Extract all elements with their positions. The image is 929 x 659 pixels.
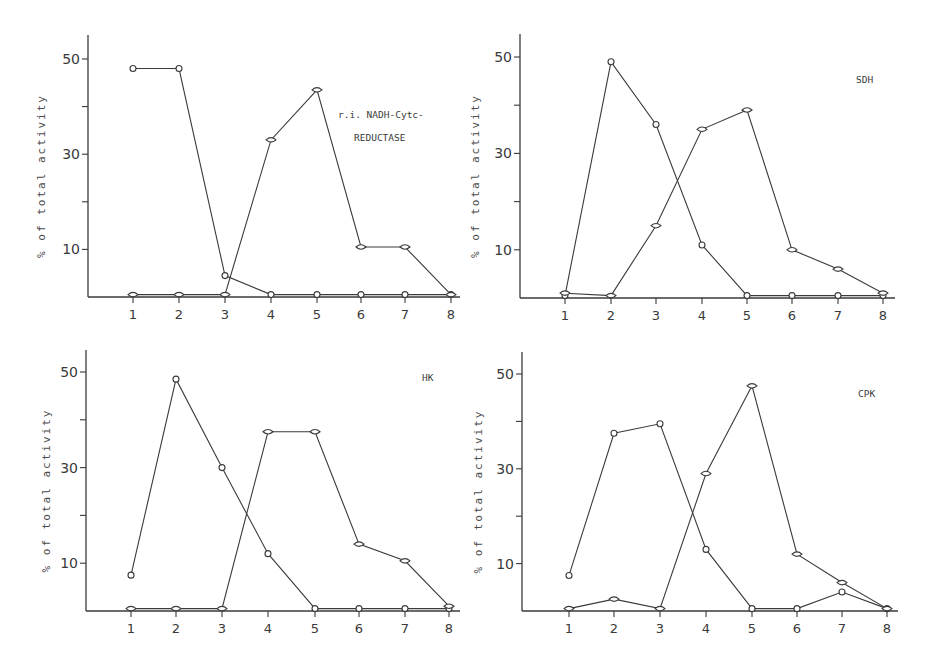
circle-marker-icon (173, 376, 179, 382)
x-tick-label: 8 (447, 307, 455, 322)
circle-marker-icon (312, 606, 318, 612)
diamond-marker-icon (310, 430, 320, 435)
x-tick-label: 5 (313, 307, 321, 322)
diamond-marker-icon (697, 127, 707, 132)
diamond-marker-icon (792, 552, 802, 557)
x-tick-label: 7 (834, 308, 842, 323)
x-tick-label: 2 (172, 621, 180, 636)
y-axis-label: % of total activity (469, 94, 482, 258)
x-tick-label: 2 (175, 307, 183, 322)
x-tick-label: 6 (788, 308, 796, 323)
y-tick-label: 50 (494, 49, 512, 65)
diamond-marker-icon (444, 604, 454, 609)
x-tick-label: 3 (656, 621, 664, 636)
x-tick-label: 1 (561, 308, 569, 323)
panel-title: HK (422, 372, 434, 383)
diamond-marker-icon (356, 245, 366, 250)
diamond-marker-icon (787, 248, 797, 253)
series-line-diamond (133, 90, 451, 295)
circle-marker-icon (265, 551, 271, 557)
x-tick-label: 3 (652, 308, 660, 323)
diamond-marker-icon (564, 606, 574, 611)
circle-marker-icon (749, 606, 755, 612)
diamond-marker-icon (263, 430, 273, 435)
x-tick-label: 3 (221, 307, 229, 322)
diamond-marker-icon (128, 292, 138, 297)
circle-marker-icon (744, 293, 750, 299)
x-tick-label: 2 (610, 621, 618, 636)
y-tick-label: 50 (60, 364, 78, 380)
y-axis-label: % of total activity (40, 409, 53, 573)
x-tick-label: 1 (129, 307, 137, 322)
x-tick-label: 1 (565, 621, 573, 636)
x-tick-label: 8 (445, 621, 453, 636)
circle-marker-icon (402, 292, 408, 298)
circle-marker-icon (657, 421, 663, 427)
diamond-marker-icon (742, 108, 752, 113)
series-line-circle (133, 69, 451, 295)
x-tick-label: 7 (401, 621, 409, 636)
series-line-circle (131, 379, 449, 608)
diamond-marker-icon (174, 292, 184, 297)
panel-hk: 10305012345678% of total activityHK (40, 350, 460, 636)
panel-nadh-cytc-reductase: 10305012345678% of total activityr.i. NA… (35, 35, 460, 322)
diamond-marker-icon (354, 542, 364, 547)
circle-marker-icon (839, 589, 845, 595)
x-tick-label: 4 (698, 308, 706, 323)
x-tick-label: 6 (793, 621, 801, 636)
diamond-marker-icon (609, 597, 619, 602)
x-tick-label: 1 (127, 621, 135, 636)
circle-marker-icon (222, 273, 228, 279)
y-tick-label: 30 (62, 146, 80, 162)
circle-marker-icon (653, 121, 659, 127)
series-line-diamond (569, 386, 887, 609)
x-tick-label: 3 (218, 621, 226, 636)
x-tick-label: 4 (267, 307, 275, 322)
diamond-marker-icon (833, 267, 843, 272)
panel-title: CPK (858, 388, 875, 399)
circle-marker-icon (566, 572, 572, 578)
diamond-marker-icon (606, 293, 616, 298)
diamond-marker-icon (837, 580, 847, 585)
circle-marker-icon (356, 606, 362, 612)
diamond-marker-icon (312, 88, 322, 93)
x-tick-label: 5 (743, 308, 751, 323)
circle-marker-icon (128, 572, 134, 578)
x-tick-label: 4 (702, 621, 710, 636)
diamond-marker-icon (747, 384, 757, 389)
panel-title: REDUCTASE (354, 132, 406, 143)
diamond-marker-icon (878, 291, 888, 296)
y-tick-label: 10 (496, 556, 514, 572)
y-tick-label: 50 (496, 366, 514, 382)
panel-title: SDH (856, 74, 873, 85)
y-axis-label: % of total activity (472, 410, 485, 574)
diamond-marker-icon (701, 471, 711, 476)
x-tick-label: 7 (838, 621, 846, 636)
y-tick-label: 30 (496, 461, 514, 477)
x-tick-label: 4 (264, 621, 272, 636)
circle-marker-icon (219, 465, 225, 471)
circle-marker-icon (835, 293, 841, 299)
y-tick-label: 10 (62, 241, 80, 257)
circle-marker-icon (358, 292, 364, 298)
circle-marker-icon (611, 430, 617, 436)
y-tick-label: 30 (60, 460, 78, 476)
panel-title: r.i. NADH-Cytc- (338, 109, 424, 120)
circle-marker-icon (703, 546, 709, 552)
figure-canvas: 10305012345678% of total activityr.i. NA… (0, 0, 929, 659)
y-tick-label: 10 (494, 242, 512, 258)
diamond-marker-icon (400, 559, 410, 564)
y-tick-label: 50 (62, 51, 80, 67)
circle-marker-icon (794, 606, 800, 612)
diamond-marker-icon (446, 292, 456, 297)
diamond-marker-icon (651, 223, 661, 228)
diamond-marker-icon (655, 606, 665, 611)
circle-marker-icon (314, 292, 320, 298)
x-tick-label: 8 (879, 308, 887, 323)
circle-marker-icon (176, 66, 182, 72)
y-tick-label: 10 (60, 555, 78, 571)
series-line-diamond (131, 432, 449, 609)
x-tick-label: 6 (355, 621, 363, 636)
panel-sdh: 10305012345678% of total activitySDH (469, 34, 895, 323)
y-axis-label: % of total activity (35, 94, 48, 258)
